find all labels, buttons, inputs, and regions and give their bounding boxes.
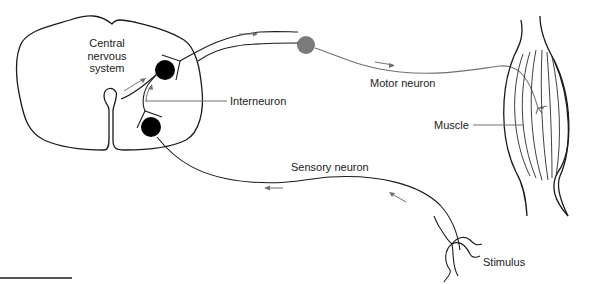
stimulus-receptor <box>434 216 482 282</box>
cns-label-line2: nervous <box>87 50 127 62</box>
motor-axon-initial <box>180 32 260 61</box>
motor-axon-main <box>198 43 298 61</box>
motor-neuron-label: Motor neuron <box>370 77 435 89</box>
stimulus-label: Stimulus <box>483 256 526 268</box>
sensory-neuron-label: Sensory neuron <box>291 161 369 173</box>
interneuron-label: Interneuron <box>230 95 286 107</box>
cns-label-line1: Central <box>89 37 124 49</box>
muscle-label: Muscle <box>434 119 469 131</box>
sensory-cell-body <box>141 117 161 137</box>
arrowhead <box>389 192 395 197</box>
upward-arrow-1 <box>124 79 144 91</box>
sensory-arrow-2 <box>392 194 406 202</box>
motor-cell-body <box>155 60 175 80</box>
cns-label-line3: system <box>90 62 125 74</box>
reflex-arc-diagram: Central nervous system Interneuron Motor… <box>0 0 592 284</box>
arrowhead <box>148 84 153 90</box>
ganglion <box>297 36 315 54</box>
arrowhead <box>264 186 270 191</box>
sensory-neuron-fiber <box>157 137 460 250</box>
arrowhead <box>389 63 395 68</box>
muscle <box>504 16 569 216</box>
